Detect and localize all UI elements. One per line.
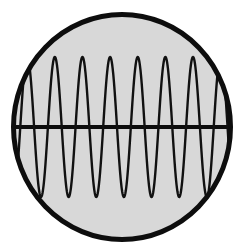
waveform-diagram (0, 0, 242, 251)
figure-container (0, 0, 242, 251)
